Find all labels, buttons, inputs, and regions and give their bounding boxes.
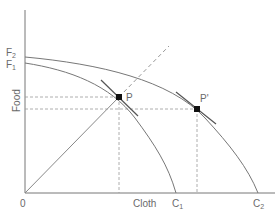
point-pprime <box>194 106 200 112</box>
f2-label: F2 <box>6 47 16 59</box>
curve-f1-c1 <box>25 63 176 193</box>
point-pprime-label: P' <box>200 93 209 104</box>
y-axis-label: Food <box>11 89 22 112</box>
origin-label: 0 <box>20 198 26 209</box>
ray-solid <box>25 97 119 193</box>
x-axis-label: Cloth <box>133 198 156 209</box>
ray-dashed <box>119 46 169 97</box>
c2-label: C2 <box>253 198 264 210</box>
production-possibility-diagram: P P' F2 F1 Food 0 Cloth C1 C2 <box>0 0 278 218</box>
point-p-label: P <box>126 92 133 103</box>
f1-label: F1 <box>6 59 16 71</box>
point-p <box>116 94 122 100</box>
c1-label: C1 <box>172 198 183 210</box>
curve-f2-c2 <box>25 57 258 193</box>
